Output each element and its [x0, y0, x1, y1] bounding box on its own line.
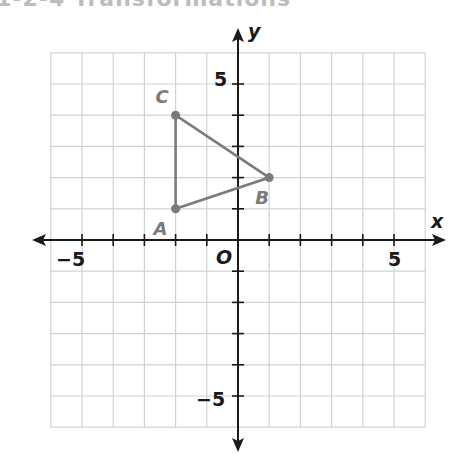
origin-label: O: [216, 246, 232, 268]
point-c: [171, 111, 180, 120]
y-tick-label-neg5: −5: [196, 388, 225, 410]
y-tick-label-5: 5: [214, 68, 227, 90]
x-tick-label-neg5: −5: [56, 248, 85, 270]
y-axis-label: y: [248, 20, 262, 42]
x-tick-label-5: 5: [388, 248, 401, 270]
point-label-c: C: [156, 86, 170, 107]
point-label-b: B: [255, 187, 269, 208]
point-label-a: A: [152, 218, 168, 239]
coordinate-plane: x y O −5 5 5 −5 ABC: [0, 0, 464, 475]
point-b: [265, 173, 274, 182]
x-axis-label: x: [430, 210, 444, 232]
triangle-abc: ABC: [152, 86, 274, 239]
point-a: [171, 204, 180, 213]
